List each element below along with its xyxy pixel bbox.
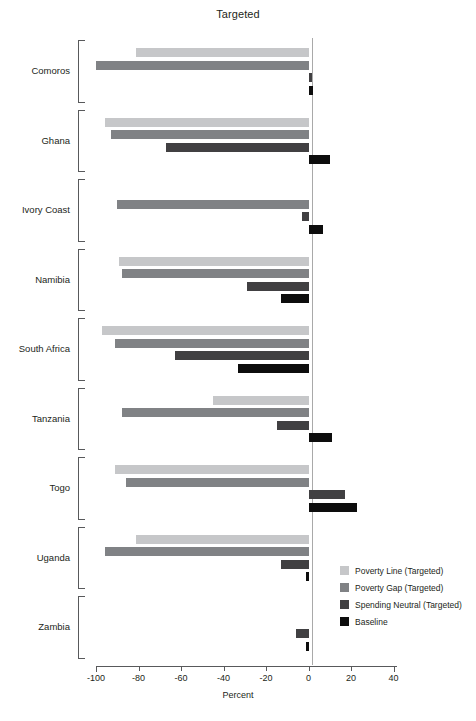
category-label: Namibia	[0, 274, 70, 285]
category-label: Comoros	[0, 65, 70, 76]
category-group: Comoros	[0, 40, 476, 110]
category-bracket	[78, 179, 85, 242]
category-bracket	[78, 457, 85, 520]
category-label: Togo	[0, 482, 70, 493]
x-axis-tick-label: -80	[119, 673, 159, 683]
category-group: Ghana	[0, 110, 476, 180]
bar-poverty-gap-targeted	[126, 478, 309, 487]
bar-poverty-line-targeted	[105, 118, 309, 127]
x-axis-tick-label: -60	[161, 673, 201, 683]
bar-poverty-line-targeted	[115, 465, 308, 474]
category-bracket	[78, 527, 85, 590]
category-group: Namibia	[0, 249, 476, 319]
bar-spending-neutral-targeted	[281, 560, 309, 569]
x-axis-tick	[181, 666, 182, 671]
category-bracket	[78, 388, 85, 451]
chart-container: Targeted ComorosGhanaIvory CoastNamibiaS…	[0, 0, 476, 721]
bar-poverty-gap-targeted	[105, 547, 309, 556]
x-axis-line-left	[96, 666, 309, 667]
bar-poverty-gap-targeted	[96, 61, 309, 70]
category-group: Togo	[0, 457, 476, 527]
category-bracket	[78, 40, 85, 103]
bar-baseline	[309, 433, 332, 442]
x-axis-tick	[309, 666, 310, 671]
category-label: Ivory Coast	[0, 204, 70, 215]
chart-legend: Poverty Line (Targeted)Poverty Gap (Targ…	[340, 562, 462, 630]
bar-poverty-line-targeted	[213, 396, 309, 405]
bar-baseline	[306, 642, 309, 651]
bar-baseline	[281, 294, 309, 303]
x-axis-tick-label: 0	[289, 673, 329, 683]
legend-swatch-icon	[340, 583, 349, 592]
x-axis-tick	[351, 666, 352, 671]
legend-label: Poverty Gap (Targeted)	[355, 583, 443, 593]
x-axis-tick	[266, 666, 267, 671]
category-label: Tanzania	[0, 413, 70, 424]
category-label: Zambia	[0, 621, 70, 632]
category-group: South Africa	[0, 318, 476, 388]
bar-spending-neutral-targeted	[247, 282, 309, 291]
category-bracket	[78, 249, 85, 312]
legend-item[interactable]: Poverty Line (Targeted)	[340, 562, 462, 579]
category-label: Uganda	[0, 552, 70, 563]
category-group: Ivory Coast	[0, 179, 476, 249]
bar-baseline	[309, 155, 330, 164]
x-axis-tick-label: -100	[76, 673, 116, 683]
bar-poverty-line-targeted	[136, 535, 308, 544]
chart-title: Targeted	[0, 8, 476, 20]
bar-spending-neutral-targeted	[309, 73, 312, 82]
bar-poverty-line-targeted	[119, 257, 308, 266]
bar-poverty-line-targeted	[136, 48, 308, 57]
x-axis-tick	[96, 666, 97, 672]
bar-poverty-gap-targeted	[122, 408, 309, 417]
bar-spending-neutral-targeted	[302, 212, 308, 221]
x-axis-tick	[224, 666, 225, 671]
bar-baseline	[238, 364, 308, 373]
bar-poverty-gap-targeted	[117, 200, 308, 209]
bar-spending-neutral-targeted	[309, 490, 345, 499]
x-axis-tick-label: -20	[246, 673, 286, 683]
legend-item[interactable]: Baseline	[340, 613, 462, 630]
category-bracket	[78, 596, 85, 659]
x-axis-title: Percent	[0, 690, 476, 700]
bar-spending-neutral-targeted	[296, 629, 309, 638]
x-axis: -100-80-60-40-2002040 Percent	[0, 666, 476, 721]
legend-label: Spending Neutral (Targeted)	[355, 600, 462, 610]
bar-spending-neutral-targeted	[175, 351, 309, 360]
category-bracket	[78, 110, 85, 173]
legend-swatch-icon	[340, 600, 349, 609]
x-axis-tick-label: 20	[331, 673, 371, 683]
legend-item[interactable]: Poverty Gap (Targeted)	[340, 579, 462, 596]
bar-baseline	[306, 572, 309, 581]
bar-poverty-line-targeted	[102, 326, 308, 335]
category-label: South Africa	[0, 343, 70, 354]
bar-baseline	[309, 86, 313, 95]
bar-baseline	[309, 503, 358, 512]
legend-label: Baseline	[355, 617, 388, 627]
x-axis-tick-label: -40	[204, 673, 244, 683]
bar-poverty-gap-targeted	[115, 339, 308, 348]
legend-swatch-icon	[340, 617, 349, 626]
x-axis-tick	[139, 666, 140, 671]
category-label: Ghana	[0, 135, 70, 146]
category-bracket	[78, 318, 85, 381]
legend-swatch-icon	[340, 566, 349, 575]
x-axis-tick-label: 40	[374, 673, 414, 683]
bar-spending-neutral-targeted	[166, 143, 308, 152]
bar-spending-neutral-targeted	[277, 421, 309, 430]
x-axis-line-right	[309, 666, 397, 667]
legend-item[interactable]: Spending Neutral (Targeted)	[340, 596, 462, 613]
bar-baseline	[309, 225, 324, 234]
bar-poverty-gap-targeted	[111, 130, 309, 139]
bar-poverty-gap-targeted	[122, 269, 309, 278]
legend-label: Poverty Line (Targeted)	[355, 566, 443, 576]
x-axis-tick	[394, 666, 395, 672]
category-group: Tanzania	[0, 388, 476, 458]
